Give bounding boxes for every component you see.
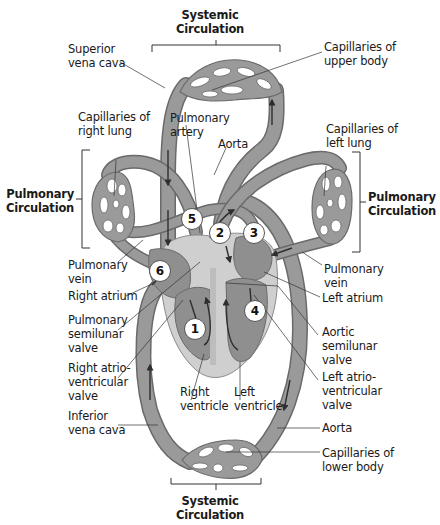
label-aorta-bottom: Aorta [322, 421, 352, 435]
label-inferior-vena-cava: Inferior vena cava [68, 409, 125, 437]
step-2-marker: 2 [209, 222, 231, 244]
capillaries-upper-body [180, 60, 282, 101]
label-pulmonary-semilunar-valve: Pulmonary semilunar valve [68, 313, 128, 355]
label-capillaries-upper-body: Capillaries of upper body [324, 40, 396, 68]
step-5-marker: 5 [181, 208, 203, 230]
label-left-atrium: Left atrium [322, 291, 383, 305]
step-1-marker: 1 [184, 318, 206, 340]
bracket-systemic-bottom [171, 478, 261, 490]
systemic-circulation-top-title: Systemic Circulation [176, 8, 244, 36]
capillaries-right-lung [92, 172, 134, 242]
capillaries-lower-body [182, 440, 262, 478]
systemic-circulation-bottom-title: Systemic Circulation [176, 494, 244, 522]
label-left-av-valve: Left atrio- ventricular valve [322, 370, 382, 412]
step-3-marker: 3 [243, 222, 265, 244]
bracket-pulmonary-left [76, 150, 90, 248]
label-pulmonary-vein-right: Pulmonary vein [324, 262, 384, 290]
label-right-atrium: Right atrium [68, 289, 138, 303]
bracket-pulmonary-right [352, 152, 366, 252]
label-pulmonary-vein-left: Pulmonary vein [68, 258, 128, 286]
pulmonary-circulation-left-title: Pulmonary Circulation [6, 187, 74, 215]
label-capillaries-lower-body: Capillaries of lower body [322, 446, 394, 474]
label-superior-vena-cava: Superior vena cava [68, 42, 125, 70]
bracket-systemic-top [152, 40, 280, 52]
label-aorta-top: Aorta [218, 137, 248, 151]
capillaries-left-lung [312, 169, 352, 244]
pulmonary-circulation-right-title: Pulmonary Circulation [368, 190, 436, 218]
label-capillaries-left-lung: Capillaries of left lung [326, 122, 398, 150]
step-4-marker: 4 [244, 300, 266, 322]
label-right-ventricle: Right ventricle [180, 385, 228, 413]
label-right-av-valve: Right atrio- ventricular valve [68, 361, 130, 403]
label-capillaries-right-lung: Capillaries of right lung [78, 110, 150, 138]
label-pulmonary-artery: Pulmonary artery [170, 111, 230, 139]
label-left-ventricle: Left ventricle [234, 385, 282, 413]
step-6-marker: 6 [149, 260, 171, 282]
label-aortic-semilunar-valve: Aortic semilunar valve [322, 325, 377, 367]
